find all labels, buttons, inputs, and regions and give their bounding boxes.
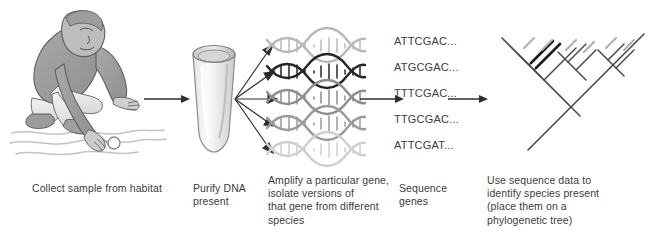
- sequence-line: ATTCGAT...: [394, 140, 454, 151]
- workflow-figure: ATTCGAC... ATGCGAC... TTTCGAC... TTGCGAC…: [0, 0, 657, 241]
- sequence-line: ATGCGAC...: [394, 62, 459, 73]
- caption-sequence: Sequence genes: [399, 182, 469, 208]
- caption-identify: Use sequence data to identify species pr…: [487, 174, 637, 227]
- dna-double-helix-group-icon: [264, 30, 368, 162]
- caption-collect: Collect sample from habitat: [32, 182, 202, 195]
- caption-amplify: Amplify a particular gene, isolate versi…: [268, 174, 390, 227]
- sequence-line: TTGCGAC...: [394, 114, 459, 125]
- sequence-line: ATTCGAC...: [394, 36, 457, 47]
- phylogenetic-tree-icon: [472, 24, 652, 164]
- caption-purify: Purify DNA present: [193, 182, 263, 208]
- person-crouching-collecting-water-sample-icon: [8, 2, 168, 162]
